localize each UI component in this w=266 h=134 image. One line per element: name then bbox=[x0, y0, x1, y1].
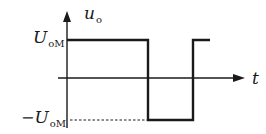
upper-level-label-sub: oM bbox=[48, 38, 64, 49]
square-wave bbox=[67, 40, 210, 120]
x-axis-label: t bbox=[252, 70, 259, 87]
upper-level-label: UoM bbox=[33, 29, 65, 46]
x-axis-label-main: t bbox=[252, 68, 259, 88]
y-axis-arrow-icon bbox=[63, 11, 71, 22]
square-wave-diagram: uo UoM −UoM t bbox=[0, 0, 266, 134]
lower-level-label: −UoM bbox=[21, 109, 66, 126]
lower-level-label-prefix: − bbox=[21, 108, 34, 127]
y-axis-label-sub: o bbox=[96, 14, 102, 25]
lower-level-label-sub: oM bbox=[50, 118, 66, 129]
upper-level-label-main: U bbox=[33, 27, 47, 47]
y-axis-label-main: u bbox=[84, 3, 95, 23]
y-axis-label: uo bbox=[84, 5, 102, 22]
x-axis-arrow-icon bbox=[233, 74, 245, 82]
lower-level-label-main: U bbox=[34, 107, 48, 127]
